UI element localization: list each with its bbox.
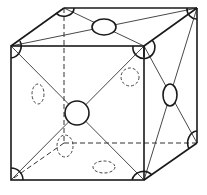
corner-atom-front-top-left <box>11 41 21 58</box>
hidden-atom-back-face <box>121 68 139 86</box>
atom-top-face <box>92 19 116 35</box>
atom-right-face <box>163 84 177 106</box>
hidden-atom-bottom-face <box>93 161 115 173</box>
atom-front-face <box>65 101 89 125</box>
fcc-unit-cell-diagram <box>0 0 207 195</box>
hidden-edge-bottom-left <box>11 143 64 180</box>
hidden-atom-left-face <box>32 84 44 104</box>
hidden-atom-back-bottom-corner <box>57 135 73 157</box>
